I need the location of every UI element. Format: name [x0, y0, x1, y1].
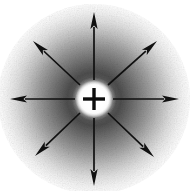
- electric-field-figure: [0, 0, 190, 191]
- field-diagram-canvas: [0, 0, 190, 191]
